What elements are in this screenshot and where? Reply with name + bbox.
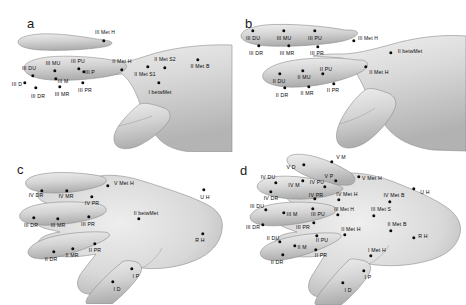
landmark-label-d-20: II Met B: [387, 221, 406, 227]
landmark-label-d-10: IV Met B: [383, 192, 404, 198]
landmark-label-c-10: II MR: [65, 252, 78, 258]
landmark-label-d-9: IV Met H: [336, 191, 357, 197]
landmark-label-b-4: III MR: [280, 50, 295, 56]
landmark-label-c-14: I D: [113, 286, 120, 292]
landmark-label-c-12: R H: [195, 237, 204, 243]
landmark-label-a-2: III MU: [46, 60, 61, 66]
panel-b: b III DUIII MUIII PUIII DRIII MRIII PRII…: [233, 0, 466, 152]
landmark-label-a-11: II Met S1: [134, 71, 155, 77]
panel-c: c V Met HIV DRIV MRIV PRU HIII DRIII MRI…: [0, 152, 233, 304]
landmark-label-d-2: V P: [325, 173, 334, 179]
landmark-label-d-11: U H: [420, 189, 429, 195]
landmark-label-b-12: II MR: [300, 90, 313, 96]
landmark-label-d-8: IV PR: [309, 192, 323, 198]
landmark-label-c-8: II betwMet: [134, 210, 159, 216]
landmark-label-c-3: IV PR: [85, 200, 99, 206]
landmark-label-b-13: II PR: [327, 87, 339, 93]
hand-illustration-c: [0, 152, 233, 304]
landmark-label-b-14: II Met H: [369, 69, 388, 75]
hand-landmark-figure: a III Met HIII PUIII MUIII DUIII DIII MI…: [0, 0, 466, 305]
landmark-label-c-4: U H: [200, 194, 209, 200]
landmark-label-d-6: V Met H: [362, 175, 382, 181]
panel-letter-b: b: [245, 16, 252, 31]
landmark-label-b-11: II DR: [276, 92, 289, 98]
landmark-label-a-0: III Met H: [95, 29, 115, 35]
landmark-label-b-10: II DU: [273, 78, 286, 84]
landmark-label-d-0: V M: [336, 154, 346, 160]
landmark-label-d-4: IV M: [288, 182, 299, 188]
landmark-label-b-8: II PU: [320, 66, 332, 72]
panel-letter-c: c: [17, 162, 24, 177]
landmark-label-d-25: II PR: [315, 252, 327, 258]
landmark-label-d-21: II DU: [267, 235, 280, 241]
landmark-label-b-2: III PU: [308, 35, 322, 41]
landmark-label-d-28: I P: [365, 274, 372, 280]
landmark-label-a-12: II Met S2: [154, 56, 175, 62]
landmark-label-c-11: II PR: [89, 247, 101, 253]
landmark-label-c-13: I P: [133, 273, 140, 279]
landmark-label-b-0: III DU: [246, 35, 260, 41]
landmark-label-a-1: III PU: [71, 58, 85, 64]
panel-d: d V MV DV PIV DUIV MIV PUV Met HIV DRIV …: [233, 153, 466, 305]
landmark-label-d-26: II DR: [271, 259, 284, 265]
panel-letter-d: d: [240, 163, 247, 178]
landmark-label-d-14: III PU: [311, 211, 325, 217]
landmark-label-a-4: III D: [12, 81, 22, 87]
landmark-label-a-3: III DU: [22, 65, 36, 71]
landmark-label-c-9: II DR: [45, 256, 58, 262]
hand-illustration-b: [233, 0, 466, 152]
landmark-label-d-23: II PU: [316, 237, 328, 243]
landmark-label-c-1: IV DR: [29, 192, 44, 198]
landmark-label-b-3: III DR: [249, 50, 263, 56]
landmark-label-c-0: V Met H: [114, 180, 134, 186]
landmark-label-b-6: III Met H: [358, 35, 378, 41]
landmark-label-d-12: III DU: [250, 203, 264, 209]
landmark-label-a-6: III P: [85, 69, 95, 75]
landmark-label-a-5: III M: [58, 78, 69, 84]
landmark-label-c-2: IV MR: [58, 193, 73, 199]
landmark-label-b-7: II betwMet: [398, 48, 423, 54]
landmark-label-a-14: I betwMet: [148, 89, 171, 95]
landmark-label-d-13: III M: [287, 211, 298, 217]
landmark-label-d-7: IV DR: [264, 195, 279, 201]
landmark-label-c-5: III DR: [24, 222, 38, 228]
landmark-label-d-19: II Met H: [341, 226, 360, 232]
landmark-label-c-6: III MR: [51, 222, 66, 228]
landmark-label-b-9: II MU: [297, 74, 310, 80]
landmark-label-d-18: III PR: [296, 224, 310, 230]
landmark-label-d-5: IV PU: [310, 179, 324, 185]
landmark-label-a-8: III MR: [55, 91, 70, 97]
landmark-label-d-16: III Met S: [371, 206, 391, 212]
landmark-label-d-27: I Met H: [368, 247, 386, 253]
landmark-label-d-17: III DR: [246, 224, 260, 230]
landmark-label-d-15: III Met H: [334, 206, 354, 212]
panel-a: a III Met HIII PUIII MUIII DUIII DIII MI…: [0, 0, 233, 152]
landmark-label-a-10: II Met H: [112, 58, 131, 64]
landmark-label-a-9: III PR: [78, 87, 92, 93]
panel-letter-a: a: [27, 16, 34, 31]
landmark-label-d-3: IV DU: [261, 174, 276, 180]
hand-illustration-a: [0, 0, 233, 152]
landmark-label-a-7: III DR: [31, 93, 45, 99]
landmark-label-b-5: III PR: [310, 50, 324, 56]
landmark-label-a-13: II Met B: [190, 63, 209, 69]
landmark-label-d-22: II M: [297, 244, 306, 250]
landmark-label-d-1: V D: [286, 164, 295, 170]
landmark-label-b-1: III MU: [277, 35, 292, 41]
landmark-label-c-7: III PR: [81, 221, 95, 227]
landmark-label-d-24: R H: [418, 233, 427, 239]
landmark-label-d-29: I D: [344, 287, 351, 293]
